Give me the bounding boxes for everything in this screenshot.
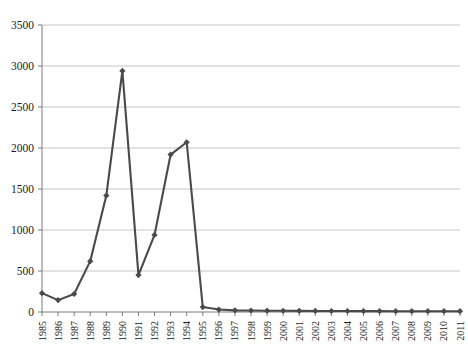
line-chart: 0500100015002000250030003500 19851986198… bbox=[0, 0, 468, 360]
x-tick-label: 2003 bbox=[326, 321, 337, 341]
x-tick-label: 1993 bbox=[165, 321, 176, 341]
x-tick-label: 1985 bbox=[37, 321, 48, 341]
x-tick-label: 1999 bbox=[262, 321, 273, 341]
x-tick-label: 1986 bbox=[53, 321, 64, 341]
x-tick-label: 1989 bbox=[101, 321, 112, 341]
data-point-marker bbox=[55, 297, 61, 303]
x-tick-label: 2011 bbox=[455, 321, 466, 341]
data-point-marker bbox=[151, 232, 157, 238]
x-tick-label: 1987 bbox=[69, 321, 80, 341]
x-axis-tick-labels: 1985198619871988198919901991199219931994… bbox=[37, 321, 466, 341]
data-point-marker bbox=[360, 308, 366, 314]
y-tick-label: 0 bbox=[28, 306, 34, 318]
x-tick-label: 1990 bbox=[117, 321, 128, 341]
x-tick-label: 1992 bbox=[149, 321, 160, 341]
chart-container: 0500100015002000250030003500 19851986198… bbox=[0, 0, 468, 360]
data-point-marker bbox=[103, 192, 109, 198]
x-tick-label: 1996 bbox=[213, 321, 224, 341]
x-tick-label: 1994 bbox=[181, 321, 192, 341]
x-tick-label: 1997 bbox=[229, 321, 240, 341]
x-tick-label: 2000 bbox=[278, 321, 289, 341]
y-axis bbox=[38, 25, 42, 312]
x-tick-label: 1998 bbox=[246, 321, 257, 341]
data-point-marker bbox=[119, 68, 125, 74]
y-tick-label: 3500 bbox=[11, 19, 34, 31]
data-point-marker bbox=[312, 308, 318, 314]
data-point-marker bbox=[264, 308, 270, 314]
x-tick-label: 2006 bbox=[374, 321, 385, 341]
y-tick-label: 3000 bbox=[11, 60, 34, 72]
data-point-marker bbox=[296, 308, 302, 314]
data-point-marker bbox=[344, 308, 350, 314]
y-tick-label: 2500 bbox=[11, 101, 34, 113]
data-point-marker bbox=[135, 272, 141, 278]
data-point-marker bbox=[328, 308, 334, 314]
x-tick-label: 1991 bbox=[133, 321, 144, 341]
data-point-marker bbox=[425, 308, 431, 314]
y-tick-label: 1500 bbox=[11, 183, 34, 195]
y-tick-label: 500 bbox=[17, 265, 35, 277]
gridlines bbox=[42, 25, 460, 271]
x-tick-label: 2009 bbox=[422, 321, 433, 341]
y-axis-tick-labels: 0500100015002000250030003500 bbox=[11, 19, 34, 318]
data-point-marker bbox=[248, 307, 254, 313]
data-point-marker bbox=[200, 304, 206, 310]
data-point-marker bbox=[441, 308, 447, 314]
x-tick-label: 2004 bbox=[342, 321, 353, 341]
data-point-marker bbox=[377, 308, 383, 314]
data-point-marker bbox=[457, 308, 463, 314]
x-tick-label: 2010 bbox=[438, 321, 449, 341]
data-point-marker bbox=[280, 308, 286, 314]
x-tick-label: 2005 bbox=[358, 321, 369, 341]
x-tick-label: 2002 bbox=[310, 321, 321, 341]
y-tick-label: 2000 bbox=[11, 142, 34, 154]
data-point-marker bbox=[39, 290, 45, 296]
y-tick-label: 1000 bbox=[11, 224, 34, 236]
data-point-marker bbox=[409, 308, 415, 314]
data-point-marker bbox=[232, 307, 238, 313]
x-tick-label: 2001 bbox=[294, 321, 305, 341]
data-point-markers bbox=[39, 68, 463, 314]
x-tick-label: 2007 bbox=[390, 321, 401, 341]
x-tick-label: 1988 bbox=[85, 321, 96, 341]
x-tick-label: 2008 bbox=[406, 321, 417, 341]
data-point-marker bbox=[393, 308, 399, 314]
x-tick-label: 1995 bbox=[197, 321, 208, 341]
